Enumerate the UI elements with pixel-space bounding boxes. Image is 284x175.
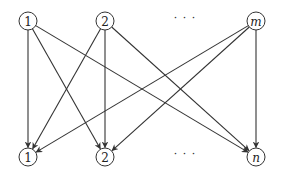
- node-t2: 2: [96, 12, 114, 30]
- node-tm: m: [247, 12, 265, 30]
- node-b1: 1: [19, 148, 37, 166]
- node-label: 1: [24, 15, 32, 29]
- node-label: 1: [24, 151, 32, 165]
- node-label: n: [252, 151, 260, 165]
- diagram-svg: 12m12n · · · · · ·: [0, 0, 284, 175]
- bipartite-diagram: 12m12n · · · · · ·: [0, 0, 284, 175]
- edges-layer: [28, 26, 256, 153]
- node-bn: n: [247, 148, 265, 166]
- node-label: 2: [101, 151, 109, 165]
- node-t1: 1: [19, 12, 37, 30]
- node-label: m: [250, 15, 261, 29]
- node-label: 2: [101, 15, 109, 29]
- ellipsis-bottom: · · ·: [174, 148, 196, 161]
- ellipsis-top: · · ·: [174, 12, 196, 25]
- node-b2: 2: [96, 148, 114, 166]
